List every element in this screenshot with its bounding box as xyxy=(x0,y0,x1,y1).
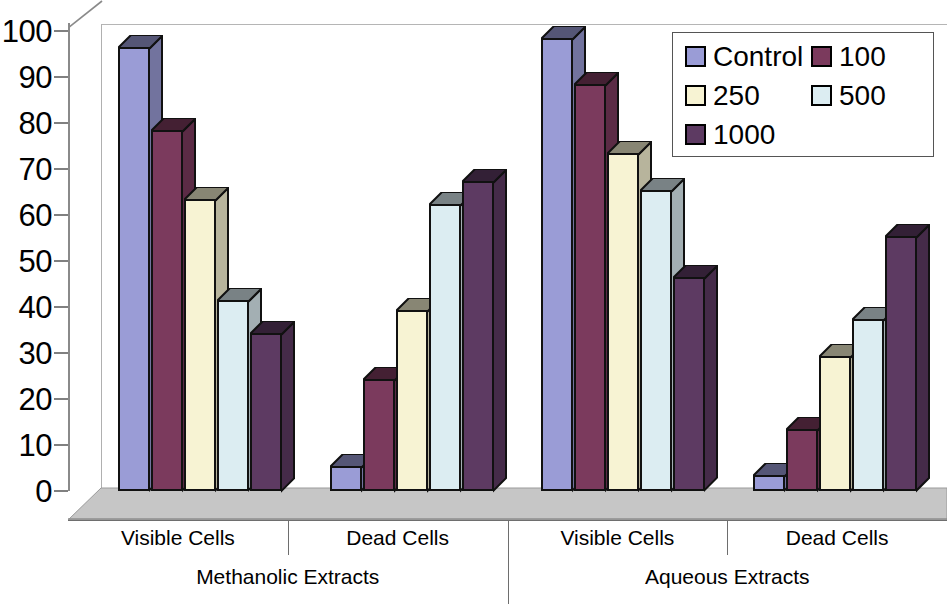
legend-label: 500 xyxy=(839,82,886,110)
legend-row: Control100 xyxy=(673,37,933,76)
y-axis-tick-mark xyxy=(54,30,68,32)
super-category-separator xyxy=(508,521,509,604)
y-axis-tick-mark xyxy=(54,260,68,262)
bar-side-face xyxy=(493,170,508,493)
bar-top-face xyxy=(184,187,229,202)
bar[interactable] xyxy=(640,192,672,491)
legend: Control1002505001000 xyxy=(672,32,934,157)
legend-swatch-icon xyxy=(811,85,832,106)
bar-top-face xyxy=(250,321,295,336)
super-category-label: Methanolic Extracts xyxy=(68,565,508,589)
y-axis-tick-mark xyxy=(54,76,68,78)
y-axis-tick-label: 50 xyxy=(19,246,52,277)
y-axis-tick-label: 90 xyxy=(19,62,52,93)
bar[interactable] xyxy=(363,381,395,491)
category-axis: Visible CellsDead CellsVisible CellsDead… xyxy=(0,520,947,604)
bar-top-face xyxy=(673,265,718,280)
legend-label: 100 xyxy=(839,43,886,71)
bar[interactable] xyxy=(574,86,606,491)
bar[interactable] xyxy=(462,183,494,491)
bar-top-face xyxy=(574,72,619,87)
y-axis-tick-mark xyxy=(54,306,68,308)
y-axis-tick-label: 20 xyxy=(19,384,52,415)
legend-item-500[interactable]: 500 xyxy=(811,82,886,110)
category-label: Dead Cells xyxy=(727,526,947,550)
legend-swatch-icon xyxy=(685,85,706,106)
bar[interactable] xyxy=(118,49,150,491)
bar-top-face xyxy=(885,224,930,239)
y-axis-tick-mark xyxy=(54,352,68,354)
y-axis-tick-label: 40 xyxy=(19,292,52,323)
bar[interactable] xyxy=(250,335,282,491)
bar[interactable] xyxy=(541,40,573,491)
legend-item-250[interactable]: 250 xyxy=(685,82,760,110)
y-axis-tick-label: 0 xyxy=(35,476,52,507)
bar-top-face xyxy=(151,118,196,133)
bar[interactable] xyxy=(429,206,461,491)
bar-top-face xyxy=(640,178,685,193)
bar[interactable] xyxy=(819,358,851,491)
bar-top-face xyxy=(607,141,652,156)
y-axis-tick-label: 70 xyxy=(19,154,52,185)
y-axis-tick-mark xyxy=(54,490,68,492)
bar[interactable] xyxy=(151,132,183,491)
bar-side-face xyxy=(281,322,296,493)
bar-chart: 0102030405060708090100 Visible CellsDead… xyxy=(0,0,947,604)
category-separator xyxy=(727,521,728,555)
y-axis-tick-label: 30 xyxy=(19,338,52,369)
y-axis: 0102030405060708090100 xyxy=(0,0,72,520)
y-axis-tick-label: 60 xyxy=(19,200,52,231)
category-label: Visible Cells xyxy=(508,526,728,550)
legend-row: 1000 xyxy=(673,115,933,154)
category-separator xyxy=(288,521,289,555)
y-axis-tick-mark xyxy=(54,398,68,400)
y-axis-tick-mark xyxy=(54,168,68,170)
bar[interactable] xyxy=(217,302,249,491)
bar[interactable] xyxy=(330,468,362,491)
bar-top-face xyxy=(118,35,163,50)
legend-item-control[interactable]: Control xyxy=(685,43,803,71)
bar-top-face xyxy=(541,26,586,41)
bar-side-face xyxy=(704,266,719,493)
y-axis-tick-mark xyxy=(54,122,68,124)
bar-top-face xyxy=(217,288,262,303)
bar[interactable] xyxy=(396,312,428,491)
bar-side-face xyxy=(916,225,931,493)
y-axis-tick-label: 100 xyxy=(2,16,52,47)
legend-row: 250500 xyxy=(673,76,933,115)
legend-swatch-icon xyxy=(685,46,706,67)
y-axis-tick-label: 10 xyxy=(19,430,52,461)
legend-label: 250 xyxy=(713,82,760,110)
bar[interactable] xyxy=(753,477,785,491)
super-category-label: Aqueous Extracts xyxy=(508,565,947,589)
bar[interactable] xyxy=(673,279,705,491)
y-axis-tick-mark xyxy=(54,444,68,446)
legend-item-100[interactable]: 100 xyxy=(811,43,886,71)
bar[interactable] xyxy=(786,431,818,491)
bar[interactable] xyxy=(607,155,639,491)
legend-label: Control xyxy=(713,43,803,71)
bar-top-face xyxy=(462,169,507,184)
bar[interactable] xyxy=(852,321,884,491)
legend-item-1000[interactable]: 1000 xyxy=(685,121,775,149)
legend-label: 1000 xyxy=(713,121,775,149)
legend-swatch-icon xyxy=(811,46,832,67)
legend-swatch-icon xyxy=(685,124,706,145)
bar[interactable] xyxy=(885,238,917,491)
bar[interactable] xyxy=(184,201,216,491)
y-axis-tick-mark xyxy=(54,214,68,216)
category-label: Dead Cells xyxy=(288,526,508,550)
y-axis-tick-label: 80 xyxy=(19,108,52,139)
category-label: Visible Cells xyxy=(68,526,288,550)
